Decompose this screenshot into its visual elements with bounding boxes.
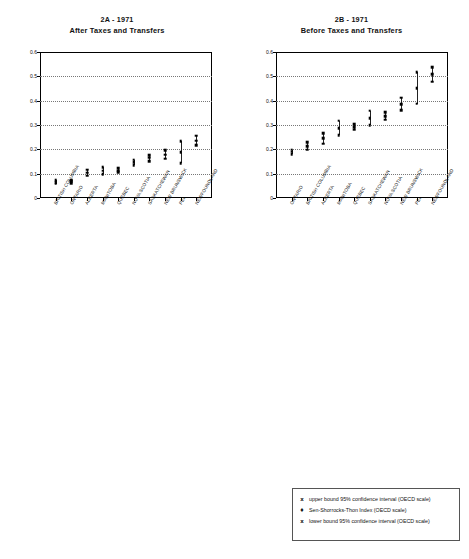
lower-bound-marker	[133, 164, 136, 167]
upper-bound-marker	[384, 111, 387, 114]
panel-2B: 2B - 1971 Before Taxes and Transfers 0.6…	[234, 0, 469, 279]
chart-subtitle-2B: Before Taxes and Transfers	[234, 25, 469, 36]
chart-title-2A: 2A - 1971 After Taxes and Transfers	[0, 14, 234, 36]
y-tick-label: 0.3	[30, 122, 37, 128]
y-tick-label: 0.6	[266, 49, 273, 55]
upper-bound-marker	[400, 96, 403, 99]
upper-bound-marker	[415, 71, 418, 74]
lower-bound-marker	[431, 80, 434, 83]
y-tick-label: 0.3	[266, 122, 273, 128]
lower-bound-marker	[306, 148, 309, 151]
lower-bound-marker	[54, 183, 57, 186]
figure-grid: 2A - 1971 After Taxes and Transfers 0.60…	[0, 0, 469, 559]
index-marker	[431, 73, 434, 76]
panel-2C: 2C - 1994 After Taxes and Transfers 0.60…	[0, 279, 234, 559]
legend-label-lower-bound: lower bound 95% confidence interval (OEC…	[309, 516, 430, 527]
chart-title-line1-2A: 2A - 1971	[0, 14, 234, 25]
upper-bound-marker	[179, 140, 182, 143]
index-marker	[369, 117, 372, 120]
legend-marker-x-upper-icon: x	[299, 494, 305, 505]
plot-area-2A: 0.60.50.40.30.20.10 BRITISH COLUMBIAONTA…	[40, 52, 212, 198]
y-tick-label: 0.1	[30, 171, 37, 177]
upper-bound-marker	[337, 120, 340, 123]
index-marker	[337, 127, 340, 130]
legend-item-lower-bound: x lower bound 95% confidence interval (O…	[299, 516, 453, 527]
index-marker	[384, 115, 387, 118]
y-tick-label: 0.5	[266, 73, 273, 79]
upper-bound-marker	[369, 110, 372, 113]
lower-bound-marker	[148, 160, 151, 163]
index-marker	[400, 103, 403, 106]
y-tick-label: 0.5	[30, 73, 37, 79]
y-tick-mark	[37, 198, 40, 199]
lower-bound-marker	[415, 102, 418, 105]
index-marker	[195, 139, 198, 142]
y-tick-label: 0.2	[266, 146, 273, 152]
lower-bound-marker	[117, 171, 120, 174]
legend-item-index: ♦ Sen-Shorrocks-Thon Index (OECD scale)	[299, 505, 453, 516]
legend-item-upper-bound: x upper bound 95% confidence interval (O…	[299, 494, 453, 505]
lower-bound-marker	[400, 109, 403, 112]
y-tick-label: 0	[34, 195, 37, 201]
chart-title-line1-2B: 2B - 1971	[234, 14, 469, 25]
y-tick-label: 0.1	[266, 171, 273, 177]
series-2A	[40, 52, 212, 198]
panel-2A: 2A - 1971 After Taxes and Transfers 0.60…	[0, 0, 234, 279]
index-marker	[164, 153, 167, 156]
upper-bound-marker	[164, 149, 167, 152]
y-tick-label: 0	[270, 195, 273, 201]
y-tick-label: 0.4	[30, 98, 37, 104]
lower-bound-marker	[164, 158, 167, 161]
lower-bound-marker	[101, 173, 104, 176]
chart-subtitle-2A: After Taxes and Transfers	[0, 25, 234, 36]
legend: x upper bound 95% confidence interval (O…	[292, 488, 460, 541]
index-marker	[306, 145, 309, 148]
legend-marker-x-lower-icon: x	[299, 516, 305, 527]
upper-bound-marker	[101, 166, 104, 169]
y-tick-label: 0.6	[30, 49, 37, 55]
upper-bound-marker	[431, 66, 434, 69]
upper-bound-marker	[322, 132, 325, 135]
lower-bound-marker	[384, 118, 387, 121]
lower-bound-marker	[353, 128, 356, 131]
index-marker	[322, 137, 325, 140]
lower-bound-marker	[179, 162, 182, 165]
index-marker	[415, 87, 418, 90]
lower-bound-marker	[322, 142, 325, 145]
legend-label-index: Sen-Shorrocks-Thon Index (OECD scale)	[309, 505, 406, 516]
chart-title-2B: 2B - 1971 Before Taxes and Transfers	[234, 14, 469, 36]
index-marker	[179, 151, 182, 154]
lower-bound-marker	[86, 174, 89, 177]
lower-bound-marker	[369, 124, 372, 127]
y-tick-label: 0.4	[266, 98, 273, 104]
upper-bound-marker	[195, 134, 198, 137]
index-marker	[101, 169, 104, 172]
y-tick-mark	[273, 198, 276, 199]
upper-bound-marker	[306, 141, 309, 144]
legend-marker-diamond-index-icon: ♦	[299, 505, 305, 516]
legend-label-upper-bound: upper bound 95% confidence interval (OEC…	[309, 494, 431, 505]
lower-bound-marker	[290, 153, 293, 156]
series-2B	[276, 52, 448, 198]
y-tick-label: 0.2	[30, 146, 37, 152]
lower-bound-marker	[195, 144, 198, 147]
plot-area-2B: 0.60.50.40.30.20.10 ONTARIOBRITISH COLUM…	[276, 52, 448, 198]
lower-bound-marker	[337, 134, 340, 137]
